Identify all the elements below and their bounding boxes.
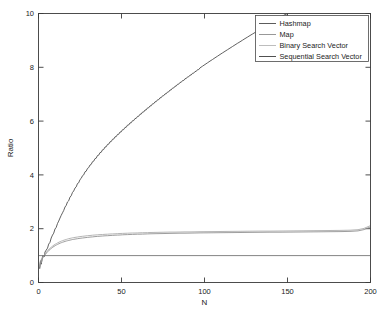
- y-tick-label: 6: [30, 117, 34, 126]
- y-tick-label: 8: [30, 63, 34, 72]
- chart-figure: 0 2 4 6 8 10 0 50 100 150 200 N Ratio: [0, 0, 390, 321]
- x-tick-label: 50: [117, 287, 125, 296]
- x-tick-label: 200: [364, 287, 377, 296]
- legend-label-binary-search-vector: Binary Search Vector: [280, 41, 349, 50]
- y-tick-label: 4: [30, 171, 34, 180]
- y-axis-title: Ratio: [6, 138, 15, 157]
- ratio-vs-n-line-chart: 0 2 4 6 8 10 0 50 100 150 200 N Ratio: [0, 0, 390, 321]
- x-tick-label: 150: [281, 287, 294, 296]
- y-tick-label: 2: [30, 224, 34, 233]
- y-tick-label: 10: [26, 9, 34, 18]
- x-tick-label: 0: [36, 287, 40, 296]
- legend-label-hashmap: Hashmap: [280, 19, 311, 28]
- chart-legend: Hashmap Map Binary Search Vector Sequent…: [256, 16, 369, 62]
- legend-label-map: Map: [280, 30, 294, 39]
- x-axis-title: N: [202, 298, 208, 307]
- legend-label-sequential-search-vector: Sequential Search Vector: [280, 52, 363, 61]
- y-tick-label: 0: [30, 278, 34, 287]
- x-tick-label: 100: [198, 287, 211, 296]
